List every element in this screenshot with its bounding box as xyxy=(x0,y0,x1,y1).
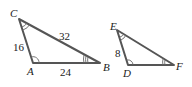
similar-triangles-diagram: C A B 16 32 24 E D F 8 xyxy=(0,0,192,87)
vertex-label-d: D xyxy=(122,67,131,79)
vertex-label-f: F xyxy=(175,60,183,72)
triangle-abc: C A B 16 32 24 xyxy=(10,7,110,78)
angle-b-mark-3 xyxy=(83,55,84,63)
side-label-ab: 24 xyxy=(60,66,72,78)
side-label-cb: 32 xyxy=(59,30,70,42)
angle-c-mark-1 xyxy=(22,23,27,27)
angle-e-mark-1 xyxy=(120,34,124,37)
side-label-ed: 8 xyxy=(115,47,121,59)
vertex-label-e: E xyxy=(109,20,117,32)
triangle-def: E D F 8 xyxy=(109,20,183,79)
vertex-label-a: A xyxy=(26,65,34,77)
vertex-label-c: C xyxy=(10,7,18,19)
side-label-ca: 16 xyxy=(13,41,25,53)
vertex-label-b: B xyxy=(103,61,110,73)
